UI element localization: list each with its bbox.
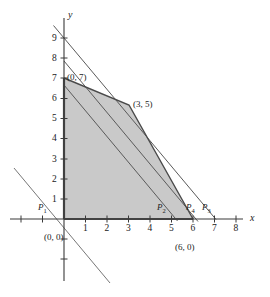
vertex-label-0-7: (0, 7) <box>67 73 87 82</box>
y-axis-label: y <box>68 10 72 20</box>
x-axis-label: x <box>250 213 254 223</box>
graph-figure: x y 1 2 3 4 5 6 7 8 1 2 3 4 5 6 7 8 9 (0… <box>0 0 270 297</box>
y-tick-label-2: 2 <box>52 175 57 185</box>
vertex-label-3-5: (3, 5) <box>133 100 153 109</box>
x-tick-label-8: 8 <box>234 224 239 234</box>
y-tick-label-6: 6 <box>52 94 57 104</box>
objective-label-p1: P1 <box>38 203 47 214</box>
x-tick-label-3: 3 <box>126 224 131 234</box>
y-tick-label-8: 8 <box>52 54 57 64</box>
objective-label-p3-sub: 3 <box>208 207 211 214</box>
objective-label-p2-sub: 2 <box>163 207 166 214</box>
y-tick-label-9: 9 <box>52 34 57 44</box>
y-tick-label-4: 4 <box>52 134 57 144</box>
coordinate-plane <box>0 0 270 297</box>
x-tick-label-5: 5 <box>169 224 174 234</box>
x-tick-label-1: 1 <box>83 224 88 234</box>
x-tick-label-6: 6 <box>191 224 196 234</box>
x-tick-label-4: 4 <box>148 224 153 234</box>
vertex-label-0-0: (0, 0) <box>44 233 64 242</box>
objective-label-p2: P2 <box>157 203 166 214</box>
y-tick-label-5: 5 <box>52 114 57 124</box>
y-tick-label-3: 3 <box>52 155 57 165</box>
objective-label-p1-sub: 1 <box>44 207 47 214</box>
objective-label-p4-sub: 4 <box>192 207 195 214</box>
y-tick-label-1: 1 <box>52 195 57 205</box>
feasible-region-fill <box>64 78 193 219</box>
objective-label-p3: P3 <box>202 203 211 214</box>
x-tick-label-2: 2 <box>105 224 110 234</box>
vertex-label-6-0: (6, 0) <box>175 243 195 252</box>
y-tick-label-7: 7 <box>52 74 57 84</box>
objective-label-p4: P4 <box>186 203 195 214</box>
x-tick-label-7: 7 <box>212 224 217 234</box>
